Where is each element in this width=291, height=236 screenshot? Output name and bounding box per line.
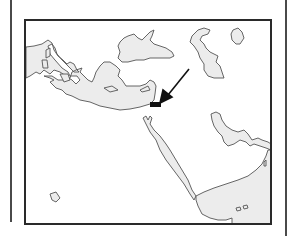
outline-map — [0, 0, 291, 236]
island-socotra-2 — [243, 205, 248, 209]
island-sardinia — [42, 60, 48, 68]
arabian-sea — [196, 150, 271, 224]
island-corsica — [46, 48, 50, 58]
lake — [231, 28, 244, 44]
caspian-sea — [190, 28, 224, 78]
arrow-icon — [160, 69, 189, 103]
island-socotra-1 — [236, 207, 241, 211]
red-sea — [143, 116, 196, 200]
black-sea — [118, 30, 174, 62]
persian-gulf — [211, 112, 271, 150]
island-small — [50, 192, 60, 202]
